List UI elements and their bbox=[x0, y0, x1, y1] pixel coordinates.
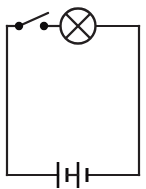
wire-group bbox=[7, 26, 139, 175]
switch-terminal-right bbox=[40, 22, 48, 30]
switch-symbol[interactable] bbox=[15, 13, 48, 30]
circuit-svg bbox=[0, 0, 146, 189]
lamp-symbol bbox=[61, 9, 96, 44]
battery-symbol bbox=[58, 162, 87, 188]
circuit-diagram bbox=[0, 0, 146, 189]
switch-terminal-left bbox=[15, 22, 23, 30]
